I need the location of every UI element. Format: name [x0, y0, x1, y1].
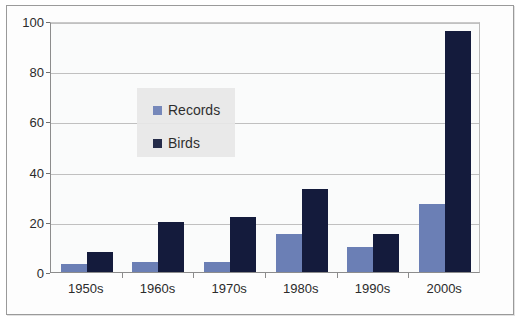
chart-legend: RecordsBirds — [137, 88, 235, 157]
chart-figure: 020406080100 1950s1960s1970s1980s1990s20… — [0, 0, 525, 326]
bar-birds-1960s — [158, 222, 184, 272]
x-axis-tick-label-1960s: 1960s — [140, 281, 175, 296]
y-axis-tick-labels: 020406080100 — [4, 22, 44, 273]
bar-records-1950s — [61, 264, 87, 272]
x-axis-tick-label-2000s: 2000s — [426, 281, 461, 296]
bar-records-1990s — [347, 247, 373, 272]
legend-swatch-records-icon — [153, 106, 162, 115]
legend-label: Birds — [168, 135, 200, 151]
bar-records-1970s — [204, 262, 230, 272]
bar-group — [338, 23, 410, 272]
x-axis-tick-label-1980s: 1980s — [283, 281, 318, 296]
y-axis-tick-label: 0 — [8, 267, 44, 280]
bar-group — [266, 23, 338, 272]
bar-group — [409, 23, 480, 272]
bar-records-1960s — [132, 262, 158, 272]
x-axis-tickmarks — [50, 273, 480, 279]
plot-area — [50, 22, 480, 273]
x-axis-tick-label-1970s: 1970s — [211, 281, 246, 296]
y-axis-tick-label: 40 — [8, 166, 44, 179]
x-axis-tick-label-1950s: 1950s — [68, 281, 103, 296]
x-axis-separator — [122, 273, 123, 278]
x-axis-tick-labels: 1950s1960s1970s1980s1990s2000s — [50, 281, 480, 303]
y-axis-tick-label: 80 — [8, 66, 44, 79]
legend-swatch-birds-icon — [153, 139, 162, 148]
legend-label: Records — [168, 102, 220, 118]
bar-birds-1980s — [302, 189, 328, 272]
x-axis-tick-label-1990s: 1990s — [355, 281, 390, 296]
bar-birds-1970s — [230, 217, 256, 272]
legend-entry-records: Records — [153, 102, 220, 118]
bar-birds-1950s — [87, 252, 113, 272]
bar-birds-1990s — [373, 234, 399, 272]
x-axis-separator — [265, 273, 266, 278]
y-axis-tick-label: 60 — [8, 116, 44, 129]
x-axis-separator — [193, 273, 194, 278]
bar-birds-2000s — [445, 31, 471, 272]
x-axis-separator — [408, 273, 409, 278]
bar-records-2000s — [419, 204, 445, 272]
y-axis-tick-label: 100 — [8, 16, 44, 29]
bar-records-1980s — [276, 234, 302, 272]
bar-group — [51, 23, 123, 272]
x-axis-separator — [337, 273, 338, 278]
legend-entry-birds: Birds — [153, 135, 200, 151]
y-axis-tick-label: 20 — [8, 216, 44, 229]
